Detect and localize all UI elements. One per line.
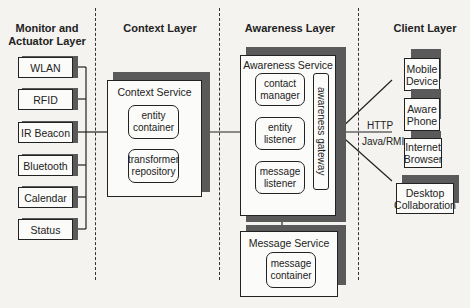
message-container-line1: message xyxy=(271,258,312,270)
sensor-status: Status xyxy=(18,219,73,240)
sensor-rfid: RFID xyxy=(18,89,73,110)
message-listener-line2: listener xyxy=(264,178,296,190)
message-service: Message Service message container xyxy=(240,231,338,297)
entity-listener-line1: entity xyxy=(268,122,292,134)
context-layer-title: Context Layer xyxy=(110,22,210,35)
client-internet-browser-line2: Browser xyxy=(404,153,443,165)
layer-divider-1 xyxy=(95,8,96,280)
transformer-repository-line2: repository xyxy=(132,166,176,178)
protocol-rmi-label: Java/RMI xyxy=(362,136,404,147)
client-mobile-device-line2: Device xyxy=(406,75,438,87)
transformer-repository-line1: transformer xyxy=(128,154,179,166)
sensor-wlan: WLAN xyxy=(18,57,73,78)
entity-listener-line2: listener xyxy=(264,134,296,146)
client-desktop-collaboration: Desktop Collaboration xyxy=(396,183,454,214)
entity-container-line2: container xyxy=(133,122,174,134)
client-aware-phone-line1: Aware xyxy=(407,103,437,115)
context-service: Context Service entity container transfo… xyxy=(107,80,202,197)
client-desktop-collaboration-line2: Collaboration xyxy=(394,199,456,211)
awareness-layer-title: Awareness Layer xyxy=(235,22,345,35)
awareness-service: Awareness Service contact manager entity… xyxy=(240,55,336,216)
protocol-http-label: HTTP xyxy=(367,120,393,131)
monitor-layer-title-line1: Monitor and xyxy=(6,22,88,35)
message-service-title: Message Service xyxy=(241,237,337,249)
layer-divider-3 xyxy=(358,8,359,280)
monitor-layer-title: Monitor and Actuator Layer xyxy=(6,22,88,48)
client-layer-title: Client Layer xyxy=(385,22,465,35)
sensor-bluetooth: Bluetooth xyxy=(18,155,73,176)
contact-manager-line2: manager xyxy=(260,90,299,102)
awareness-gateway: awareness gateway xyxy=(313,73,329,190)
sensor-calendar: Calendar xyxy=(18,187,73,208)
context-service-title: Context Service xyxy=(108,86,201,98)
client-internet-browser-line1: Internet xyxy=(405,141,441,153)
client-aware-phone: Aware Phone xyxy=(404,98,440,131)
client-internet-browser: Internet Browser xyxy=(404,138,442,168)
awareness-gateway-label: awareness gateway xyxy=(315,87,327,175)
client-mobile-device-line1: Mobile xyxy=(407,63,438,75)
client-aware-phone-line2: Phone xyxy=(407,115,437,127)
monitor-layer-title-line2: Actuator Layer xyxy=(6,35,88,48)
message-container: message container xyxy=(266,252,316,288)
layer-divider-2 xyxy=(219,8,220,280)
entity-container: entity container xyxy=(128,105,179,139)
entity-listener: entity listener xyxy=(255,117,305,150)
message-listener: message listener xyxy=(255,161,305,194)
awareness-service-title: Awareness Service xyxy=(241,59,335,71)
contact-manager: contact manager xyxy=(255,73,305,106)
entity-container-line1: entity xyxy=(142,110,166,122)
contact-manager-line1: contact xyxy=(264,78,296,90)
sensor-ir-beacon: IR Beacon xyxy=(18,122,73,143)
message-listener-line1: message xyxy=(260,166,301,178)
client-desktop-collaboration-line1: Desktop xyxy=(406,187,445,199)
message-container-line2: container xyxy=(270,270,311,282)
client-mobile-device: Mobile Device xyxy=(404,58,440,91)
transformer-repository: transformer repository xyxy=(128,149,179,183)
